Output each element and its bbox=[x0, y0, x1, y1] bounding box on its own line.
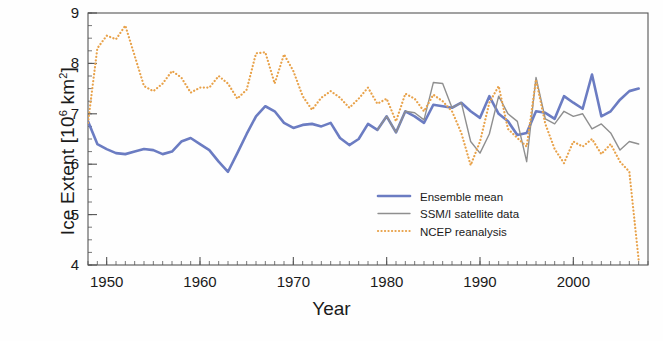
y-axis-label-close: ] bbox=[57, 67, 78, 72]
x-tick-label: 1960 bbox=[183, 273, 216, 290]
y-axis-label-text: Ice Extent [10 bbox=[57, 116, 78, 235]
y-tick-label: 9 bbox=[71, 4, 79, 21]
y-axis-label-unit-exponent: 2 bbox=[57, 72, 69, 78]
x-tick-label: 1950 bbox=[90, 273, 123, 290]
x-tick-label: 2000 bbox=[557, 273, 590, 290]
axis-minor-ticks bbox=[88, 13, 648, 265]
x-tick-label: 1990 bbox=[463, 273, 496, 290]
figure-container: 195019601970198019902000456789 Ensemble … bbox=[0, 0, 663, 341]
legend-label-1: SSM/I satellite data bbox=[420, 208, 520, 220]
axis-tick-labels: 195019601970198019902000456789 bbox=[71, 4, 590, 290]
x-tick-label: 1980 bbox=[370, 273, 403, 290]
data-series-layer bbox=[88, 26, 639, 260]
y-axis-label-exponent: 6 bbox=[57, 110, 69, 116]
legend-label-0: Ensemble mean bbox=[420, 191, 503, 203]
y-axis-label: Ice Extent [106 km2] bbox=[57, 21, 79, 281]
y-axis-label-unit: km bbox=[57, 79, 78, 110]
x-axis-label: Year bbox=[0, 298, 663, 320]
legend-label-2: NCEP reanalysis bbox=[420, 226, 507, 238]
series-line-ncep bbox=[88, 26, 639, 260]
series-line-ssmi bbox=[377, 78, 638, 162]
chart-legend: Ensemble meanSSM/I satellite dataNCEP re… bbox=[378, 191, 520, 238]
ice-extent-line-chart: 195019601970198019902000456789 Ensemble … bbox=[0, 0, 663, 341]
plot-frame bbox=[88, 13, 648, 265]
x-tick-label: 1970 bbox=[277, 273, 310, 290]
